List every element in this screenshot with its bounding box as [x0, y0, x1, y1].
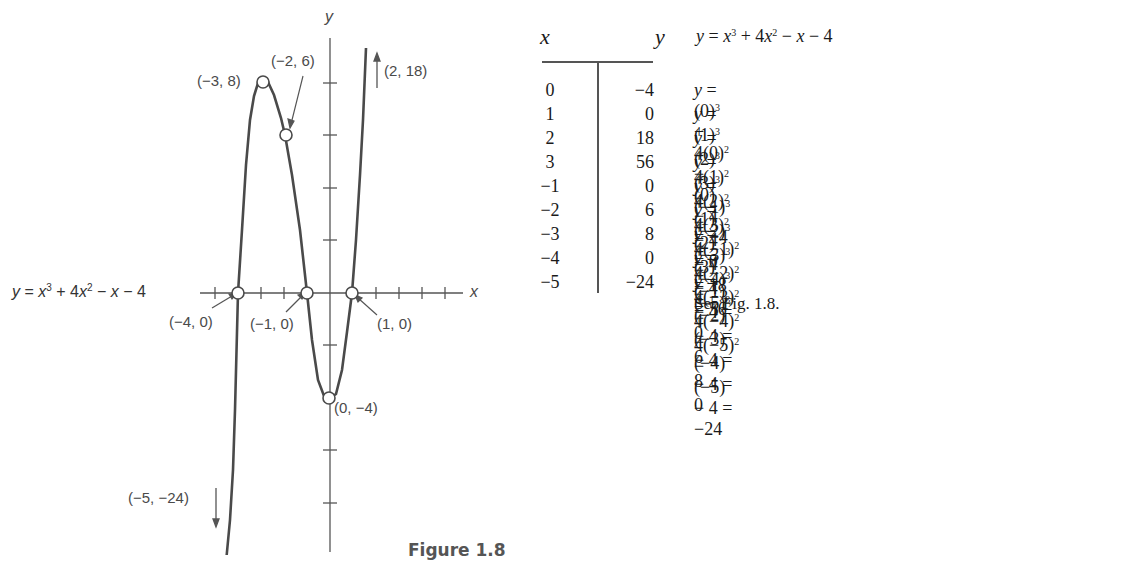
point-marker: [280, 129, 292, 141]
table-divider-vertical: [597, 61, 599, 293]
figure-caption: Figure 1.8: [408, 540, 506, 560]
cell-x: −1: [530, 176, 570, 197]
point-label: (−3, 8): [197, 72, 241, 89]
cell-y: 0: [604, 176, 654, 197]
arrow-down-icon: [213, 488, 219, 527]
table-header-y: y: [655, 24, 665, 50]
point-label: (−5, −24): [128, 489, 189, 506]
point-label: (−4, 0): [169, 313, 213, 330]
arrow-up-icon: [374, 53, 380, 88]
cell-x: 3: [530, 152, 570, 173]
point-marker: [257, 76, 269, 88]
point-label: (−1, 0): [250, 315, 294, 332]
cell-x: −2: [530, 200, 570, 221]
cell-y: −4: [604, 80, 654, 101]
cell-y: 0: [604, 248, 654, 269]
pointer-arrow-icon: [286, 296, 302, 312]
point-label: (−2, 6): [271, 52, 315, 69]
cell-x: 2: [530, 128, 570, 149]
point-marker: [232, 287, 244, 299]
pointer-arrow-icon: [358, 298, 377, 315]
cell-y: 56: [604, 152, 654, 173]
point-marker: [301, 287, 313, 299]
point-label: (2, 18): [384, 62, 427, 79]
cell-y: 0: [604, 104, 654, 125]
equation-label: y = x3 + 4x2 − x − 4: [12, 283, 146, 301]
point-label: (0, −4): [334, 399, 378, 416]
see-figure-note: See Fig. 1.8.: [694, 294, 779, 314]
cell-x: 1: [530, 104, 570, 125]
point-marker: [346, 287, 358, 299]
cell-x: −3: [530, 224, 570, 245]
y-axis-label: y: [325, 8, 333, 26]
cell-y: −24: [604, 272, 654, 293]
cell-y: 8: [604, 224, 654, 245]
cell-x: −4: [530, 248, 570, 269]
x-axis-label: x: [470, 283, 478, 301]
cell-x: 0: [530, 80, 570, 101]
cell-y: 18: [604, 128, 654, 149]
table-header-x: x: [540, 24, 550, 50]
cell-y: 6: [604, 200, 654, 221]
pointer-arrow-icon: [291, 76, 303, 124]
table-header-equation: y = x3 + 4x2 − x − 4: [696, 26, 833, 47]
cell-x: −5: [530, 272, 570, 293]
point-label: (1, 0): [377, 315, 412, 332]
